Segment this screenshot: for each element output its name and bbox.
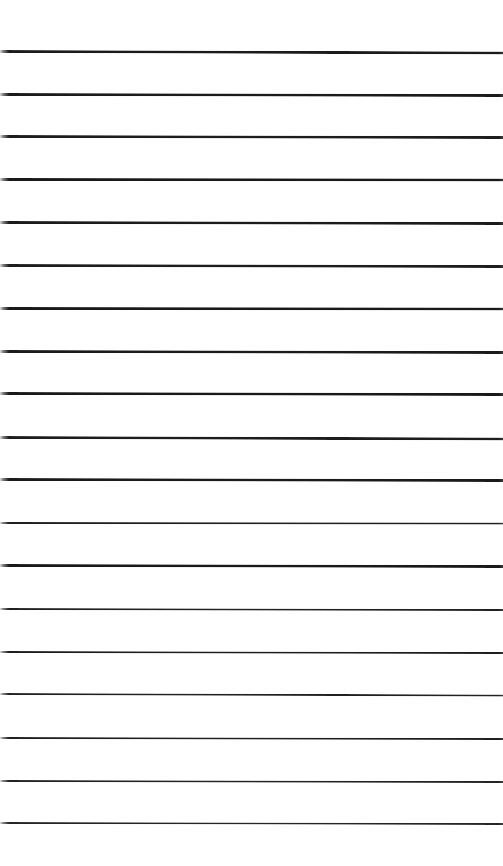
ruled-line bbox=[0, 737, 503, 740]
ruled-line bbox=[0, 50, 503, 54]
ruled-line bbox=[0, 693, 503, 697]
ruled-line bbox=[0, 651, 503, 654]
ruled-line bbox=[0, 221, 503, 225]
ruled-line bbox=[0, 436, 503, 440]
ruled-line bbox=[0, 307, 503, 310]
lined-paper-page bbox=[0, 0, 503, 866]
ruled-line bbox=[0, 564, 503, 568]
ruled-line bbox=[0, 178, 503, 181]
ruled-line bbox=[0, 822, 503, 825]
ruled-line bbox=[0, 522, 503, 525]
ruled-line bbox=[0, 350, 503, 353]
ruled-line bbox=[0, 392, 503, 396]
ruled-line bbox=[0, 93, 503, 97]
ruled-line bbox=[0, 264, 503, 267]
ruled-line bbox=[0, 780, 503, 783]
ruled-line bbox=[0, 478, 503, 482]
ruled-line bbox=[0, 135, 503, 138]
ruled-line bbox=[0, 608, 503, 611]
